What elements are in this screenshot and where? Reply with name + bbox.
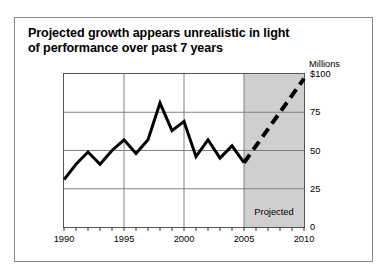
title-line-2: of performance over past 7 years: [28, 41, 328, 56]
plot-svg: [64, 74, 304, 227]
x-axis-tick-label: 2010: [294, 234, 315, 244]
y-axis-tick-label: 75: [310, 107, 320, 117]
series-line-actual: [64, 103, 244, 180]
x-axis-tick-label: 2005: [234, 234, 255, 244]
title-line-1: Projected growth appears unrealistic in …: [28, 26, 328, 41]
plot-inner: Projected: [64, 74, 304, 227]
y-axis-tick-label: 0: [310, 222, 315, 232]
x-axis-tick-label: 1995: [114, 234, 135, 244]
y-axis-tick-label: $100: [310, 69, 331, 79]
projected-annotation-label: Projected: [254, 207, 293, 217]
x-axis-tick-label: 1990: [54, 234, 75, 244]
page-title: Projected growth appears unrealistic in …: [28, 26, 328, 56]
y-axis-tick-label: 25: [310, 184, 320, 194]
y-axis-tick-label: 50: [310, 146, 320, 156]
x-axis-tick-label: 2000: [174, 234, 195, 244]
chart-figure: Projected growth appears unrealistic in …: [0, 0, 389, 278]
y-axis-unit-label: Millions: [309, 59, 340, 69]
plot-area: Projected: [63, 73, 305, 228]
